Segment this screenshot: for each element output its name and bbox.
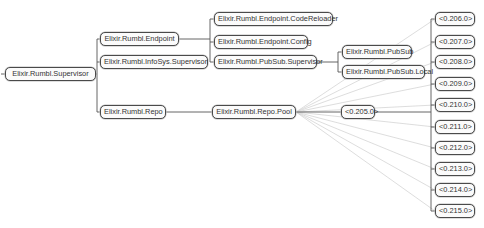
node-pid-0-215-0[interactable]: <0.215.0>	[435, 204, 475, 218]
node-pid-0-213-0[interactable]: <0.213.0>	[435, 162, 475, 176]
node-pid-0-209-0[interactable]: <0.209.0>	[435, 77, 475, 91]
node-repo-pool[interactable]: Elixir.Rumbl.Repo.Pool	[212, 105, 296, 119]
node-rumbl-repo[interactable]: Elixir.Rumbl.Repo	[100, 105, 166, 119]
node-pid-0-211-0[interactable]: <0.211.0>	[435, 120, 475, 134]
node-pid-0-208-0[interactable]: <0.208.0>	[435, 55, 475, 69]
node-pubsub-supervisor[interactable]: Elixir.Rumbl.PubSub.Supervisor	[214, 55, 317, 69]
node-pid-0-205-0[interactable]: <0.205.0>	[341, 105, 375, 119]
node-pid-0-207-0[interactable]: <0.207.0>	[435, 35, 475, 49]
node-pubsub[interactable]: Elixir.Rumbl.PubSub	[342, 45, 412, 59]
node-pubsub-local[interactable]: Elixir.Rumbl.PubSub.Local	[342, 65, 425, 79]
node-pid-0-210-0[interactable]: <0.210.0>	[435, 98, 475, 112]
node-pid-0-212-0[interactable]: <0.212.0>	[435, 141, 475, 155]
node-rumbl-supervisor[interactable]: Elixir.Rumbl.Supervisor	[5, 67, 96, 81]
node-rumbl-endpoint[interactable]: Elixir.Rumbl.Endpoint	[100, 32, 179, 46]
node-endpoint-config[interactable]: Elixir.Rumbl.Endpoint.Config	[214, 35, 308, 49]
node-endpoint-code-reloader[interactable]: Elixir.Rumbl.Endpoint.CodeReloader	[214, 12, 333, 26]
node-rumbl-infosys-supervisor[interactable]: Elixir.Rumbl.InfoSys.Supervisor	[100, 55, 208, 69]
node-pid-0-206-0[interactable]: <0.206.0>	[435, 12, 475, 26]
node-pid-0-214-0[interactable]: <0.214.0>	[435, 183, 475, 197]
supervision-tree-diagram: Elixir.Rumbl.Supervisor Elixir.Rumbl.End…	[0, 0, 484, 228]
